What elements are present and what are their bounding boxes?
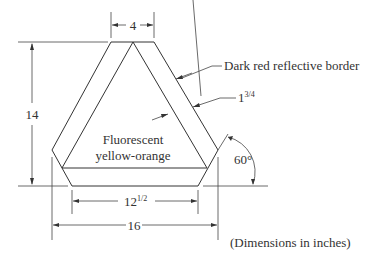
height-label: 14: [26, 107, 40, 122]
border-label: Dark red reflective border: [224, 58, 360, 73]
outer-border-shape: [52, 42, 218, 186]
dim-height: 14: [18, 42, 108, 186]
inner-width-label: 121/2: [124, 194, 147, 209]
dim-inner-width: 121/2: [72, 190, 198, 214]
units-note: (Dimensions in inches): [230, 235, 351, 250]
dim-top-width: 4: [111, 12, 154, 38]
border-callout: Dark red reflective border: [182, 58, 360, 78]
angle-label: 60°: [234, 152, 252, 167]
center-label-line1: Fluorescent: [103, 132, 164, 147]
sign-diagram: 4 14 13/4 Dark red reflective border Flu…: [0, 0, 373, 263]
center-label-line2: yellow-orange: [95, 148, 170, 163]
overall-width-label: 16: [128, 218, 142, 233]
top-width-label: 4: [130, 18, 137, 33]
border-width-label: 13/4: [238, 90, 255, 105]
